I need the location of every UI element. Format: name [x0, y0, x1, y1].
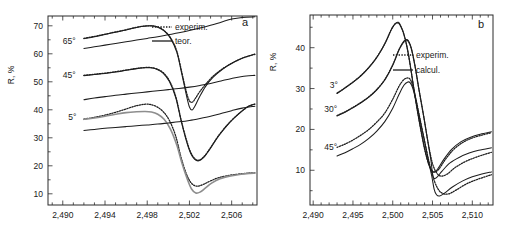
y-tick-label: 30 — [296, 84, 306, 94]
chart-panel-b: 2,4902,4952,5002,5052,51010203040R, %3°3… — [261, 0, 522, 238]
data-curve — [84, 104, 255, 186]
y-tick-label: 70 — [34, 21, 44, 31]
data-curve — [337, 23, 491, 172]
plot-frame — [310, 15, 493, 205]
x-tick-label: 2,498 — [137, 210, 159, 220]
y-tick-label: 10 — [34, 189, 44, 199]
y-tick-label: 60 — [34, 49, 44, 59]
chart-panel-a: 2,4902,4942,4982,5022,50610203040506070R… — [0, 0, 261, 238]
figure-container: 2,4902,4942,4982,5022,50610203040506070R… — [0, 0, 522, 238]
x-tick-label: 2,505 — [422, 210, 444, 220]
x-tick-label: 2,495 — [342, 210, 364, 220]
panel-letter: b — [478, 18, 484, 30]
legend-label: experim. — [175, 22, 208, 32]
angle-annotation: 45° — [63, 70, 76, 80]
y-tick-label: 50 — [34, 77, 44, 87]
curves-group — [337, 22, 491, 196]
data-curve — [84, 75, 255, 99]
legend-label: teor. — [175, 36, 192, 46]
data-curve — [84, 26, 255, 110]
y-tick-label: 40 — [34, 105, 44, 115]
curves-group — [84, 17, 255, 193]
data-curve — [337, 22, 491, 172]
panel-letter: a — [242, 16, 249, 28]
x-tick-label: 2,494 — [94, 210, 116, 220]
y-tick-label: 30 — [34, 133, 44, 143]
y-tick-label: 20 — [34, 161, 44, 171]
x-tick-label: 2,506 — [221, 210, 243, 220]
angle-annotation: 3° — [330, 80, 338, 90]
data-curve — [337, 39, 491, 178]
x-tick-label: 2,500 — [382, 210, 404, 220]
chart-legend: experim.teor. — [152, 22, 208, 46]
legend-label: calcul. — [416, 65, 440, 75]
y-tick-label: 10 — [296, 165, 306, 175]
y-axis-title: R, % — [6, 65, 16, 84]
data-curve — [337, 82, 491, 196]
legend-label: experim. — [416, 50, 449, 60]
x-tick-label: 2,490 — [52, 210, 74, 220]
angle-annotation: 45° — [324, 142, 337, 152]
y-tick-label: 40 — [296, 43, 306, 53]
x-tick-label: 2,490 — [303, 210, 325, 220]
chart-legend: experim.calcul. — [393, 50, 449, 75]
y-axis-title: R, % — [268, 52, 278, 71]
x-tick-label: 2,502 — [179, 210, 201, 220]
y-tick-label: 20 — [296, 124, 306, 134]
angle-annotation: 30° — [324, 104, 337, 114]
angle-annotation: 65° — [63, 36, 76, 46]
angle-annotation: 5° — [68, 112, 76, 122]
x-tick-label: 2,510 — [462, 210, 484, 220]
